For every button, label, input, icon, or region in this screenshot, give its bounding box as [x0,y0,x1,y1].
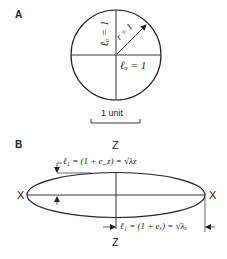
axis-z-top-label: Z [112,140,119,151]
figure-graphics [0,0,227,259]
x-stretch-label: ℓ₁ = (1 + eₓ) = √λₓ [120,222,187,231]
strain-ellipse-figure: A ℓₒ = 1 ℓₒ = 1 r = 1 1 unit B Z Z X X ℓ… [0,0,227,259]
vertical-length-label: ℓₒ = 1 [99,20,110,46]
horizontal-length-label: ℓₒ = 1 [120,60,146,71]
axis-x-right-label: X [209,190,216,201]
scale-label: 1 unit [101,109,123,118]
axis-z-bottom-label: Z [112,237,119,248]
panel-b-label: B [15,140,22,150]
scale-bar [91,119,140,123]
z-stretch-label: ℓ₁ = (1 + e_z) = √λz [63,157,136,166]
unit-circle-group [71,10,161,123]
panel-a-label: A [15,10,22,20]
axis-x-left-label: X [17,190,24,201]
